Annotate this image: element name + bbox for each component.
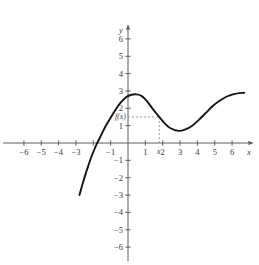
x-tick-label: −6: [19, 148, 28, 157]
function-curve-group: [79, 93, 244, 195]
x-tick-label: 5: [213, 148, 217, 157]
function-curve: [79, 93, 244, 195]
y-tick-label: 4: [119, 69, 123, 78]
y-tick-label: −2: [114, 173, 123, 182]
y-tick-label: 2: [119, 104, 123, 113]
x-tick-label: 3: [178, 148, 182, 157]
y-tick-label: −5: [114, 226, 123, 235]
axes-group: [3, 25, 253, 261]
function-graph-figure: y x f(x) x −6−5−4−3−1123456−6−5−4−3−2−11…: [0, 0, 259, 265]
guide-lines-group: [128, 117, 159, 143]
x-tick-label: 4: [195, 148, 199, 157]
x-tick-label: −3: [71, 148, 80, 157]
x-tick-label: 6: [230, 148, 234, 157]
y-tick-label: −1: [114, 156, 123, 165]
y-tick-label: 3: [119, 87, 123, 96]
y-tick-label: −6: [114, 243, 123, 252]
x-tick-label: −5: [37, 148, 46, 157]
x-axis-arrow-icon: [248, 141, 253, 145]
y-axis-arrow-icon: [126, 25, 130, 30]
x-axis-label: x: [247, 148, 251, 157]
y-tick-label: −3: [114, 191, 123, 200]
plot-canvas: [0, 0, 259, 265]
y-tick-label: 6: [119, 35, 123, 44]
y-tick-label: 1: [119, 121, 123, 130]
x-tick-label: −4: [54, 148, 63, 157]
x-tick-label: 1: [143, 148, 147, 157]
y-tick-label: 5: [119, 52, 123, 61]
y-tick-label: −4: [114, 208, 123, 217]
x-tick-label: 2: [161, 148, 165, 157]
